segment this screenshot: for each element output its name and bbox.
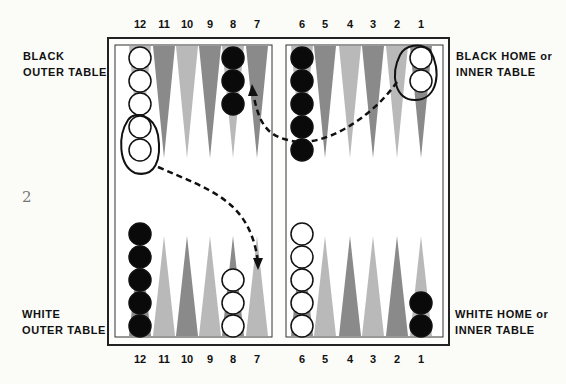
black-checker[interactable] — [291, 47, 313, 69]
point-number: 12 — [130, 18, 150, 30]
black-checker[interactable] — [410, 292, 432, 314]
point-number: 8 — [223, 353, 243, 365]
point-number: 1 — [411, 353, 431, 365]
black-checker[interactable] — [291, 139, 313, 161]
black-checker[interactable] — [291, 93, 313, 115]
point-number: 5 — [315, 18, 335, 30]
black-checker[interactable] — [129, 292, 151, 314]
point-number: 9 — [200, 18, 220, 30]
point-number: 11 — [154, 18, 174, 30]
point-number: 6 — [292, 18, 312, 30]
point-number: 3 — [363, 353, 383, 365]
point-number: 6 — [292, 353, 312, 365]
white-checker[interactable] — [222, 269, 244, 291]
point-number: 3 — [363, 18, 383, 30]
white-checker[interactable] — [291, 223, 313, 245]
white-checker[interactable] — [129, 47, 151, 69]
white-checker[interactable] — [129, 70, 151, 92]
black-checker[interactable] — [410, 315, 432, 337]
point-number: 11 — [154, 353, 174, 365]
white-checker[interactable] — [410, 47, 432, 69]
point-number: 2 — [387, 353, 407, 365]
white-checker[interactable] — [291, 246, 313, 268]
white-checker[interactable] — [291, 292, 313, 314]
white-checker[interactable] — [291, 315, 313, 337]
point-number: 7 — [247, 353, 267, 365]
point-number: 5 — [315, 353, 335, 365]
point-number: 9 — [200, 353, 220, 365]
black-checker[interactable] — [222, 70, 244, 92]
point-number: 7 — [247, 18, 267, 30]
point-number: 10 — [177, 18, 197, 30]
black-checker[interactable] — [129, 269, 151, 291]
white-checker[interactable] — [291, 269, 313, 291]
white-checker[interactable] — [410, 70, 432, 92]
point-number: 8 — [223, 18, 243, 30]
point-number: 10 — [177, 353, 197, 365]
point-number: 12 — [130, 353, 150, 365]
black-checker[interactable] — [222, 93, 244, 115]
white-checker[interactable] — [129, 139, 151, 161]
black-checker[interactable] — [291, 70, 313, 92]
point-number: 2 — [387, 18, 407, 30]
white-checker[interactable] — [222, 292, 244, 314]
point-number: 4 — [340, 18, 360, 30]
point-number: 4 — [340, 353, 360, 365]
black-checker[interactable] — [291, 116, 313, 138]
black-checker[interactable] — [222, 47, 244, 69]
backgammon-board — [0, 0, 566, 384]
white-checker[interactable] — [129, 93, 151, 115]
point-number: 1 — [411, 18, 431, 30]
black-checker[interactable] — [129, 315, 151, 337]
black-checker[interactable] — [129, 246, 151, 268]
white-checker[interactable] — [222, 315, 244, 337]
black-checker[interactable] — [129, 223, 151, 245]
